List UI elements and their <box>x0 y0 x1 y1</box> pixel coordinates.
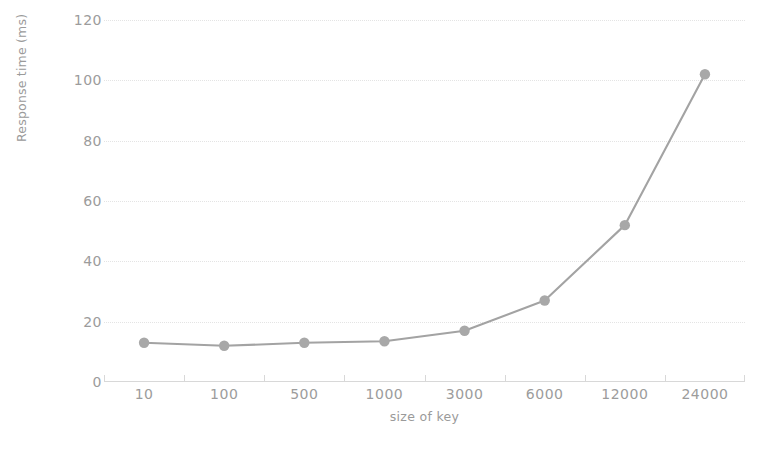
plot-area <box>104 20 745 382</box>
x-axis-tick-label: 24000 <box>660 386 750 402</box>
x-axis-end-cap <box>744 375 745 382</box>
series-polyline <box>144 74 705 346</box>
line-chart: Response time (ms) 020406080100120 10100… <box>0 0 775 452</box>
x-axis-tick-label: 10 <box>99 386 189 402</box>
y-axis-tick-label: 80 <box>46 134 102 148</box>
y-axis-tick-label: 40 <box>46 254 102 268</box>
x-axis-tick-label: 3000 <box>420 386 510 402</box>
x-axis-tick-label: 1000 <box>339 386 429 402</box>
data-point-marker <box>379 336 389 346</box>
y-axis-tick-label: 20 <box>46 315 102 329</box>
x-axis-tick <box>344 375 345 382</box>
data-point-marker <box>700 69 710 79</box>
x-axis-tick <box>425 375 426 382</box>
x-axis-tick <box>184 375 185 382</box>
data-point-marker <box>620 220 630 230</box>
data-point-marker <box>459 326 469 336</box>
data-point-marker <box>299 338 309 348</box>
x-axis-tick-label: 100 <box>179 386 269 402</box>
data-point-marker <box>139 338 149 348</box>
y-axis-tick-labels: 020406080100120 <box>40 0 102 452</box>
y-axis-tick-label: 0 <box>46 375 102 389</box>
y-axis-tick-label: 60 <box>46 194 102 208</box>
data-point-marker <box>219 341 229 351</box>
x-axis-tick-label: 500 <box>259 386 349 402</box>
y-axis-title: Response time (ms) <box>14 0 36 142</box>
x-axis-tick-label: 12000 <box>580 386 670 402</box>
data-point-marker <box>539 295 549 305</box>
y-axis-tick-label: 100 <box>46 73 102 87</box>
x-axis-tick <box>505 375 506 382</box>
x-axis-tick-labels: 101005001000300060001200024000 <box>104 386 745 406</box>
x-axis-end-cap <box>104 375 105 382</box>
x-axis-ticks <box>104 375 745 383</box>
x-axis-tick <box>585 375 586 382</box>
x-axis-tick-label: 6000 <box>500 386 590 402</box>
series-line-response-time <box>104 20 745 382</box>
y-axis-tick-label: 120 <box>46 13 102 27</box>
x-axis-title: size of key <box>104 409 745 424</box>
x-axis-tick <box>665 375 666 382</box>
x-axis-tick <box>264 375 265 382</box>
series-markers <box>139 69 710 351</box>
